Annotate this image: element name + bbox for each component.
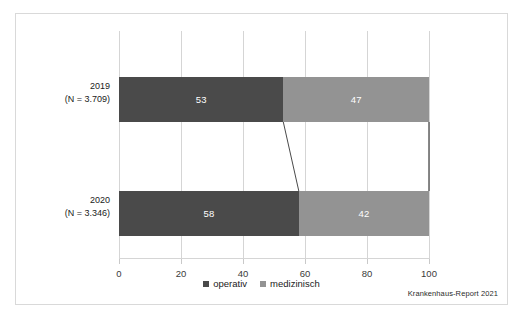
category-label-2020-n: (N = 3.346): [20, 207, 110, 220]
plot-area: 53475842: [119, 31, 429, 259]
chart-figure: 2019 (N = 3.709) 2020 (N = 3.346) 534758…: [15, 13, 508, 305]
tick-mark-0: [119, 259, 120, 264]
bar-segment: 53: [119, 77, 283, 122]
bar-value-label: 58: [203, 208, 214, 219]
tick-mark-40: [243, 259, 244, 264]
bar-value-label: 42: [358, 208, 369, 219]
bar-value-label: 47: [351, 94, 362, 105]
bar-segment: 47: [283, 77, 429, 122]
legend-item[interactable]: operativ: [203, 278, 247, 289]
category-label-2019: 2019 (N = 3.709): [20, 80, 110, 106]
legend-label: medizinisch: [270, 278, 320, 289]
tick-mark-60: [305, 259, 306, 264]
bar-segment: 58: [119, 191, 299, 236]
tick-mark-100: [429, 259, 430, 264]
bar-row: 5842: [119, 191, 429, 236]
legend-swatch-icon: [203, 281, 209, 287]
category-label-2019-n: (N = 3.709): [20, 93, 110, 106]
bar-row: 5347: [119, 77, 429, 122]
tick-mark-80: [367, 259, 368, 264]
connector-line: [283, 122, 299, 191]
category-label-2019-year: 2019: [20, 80, 110, 93]
category-label-2020: 2020 (N = 3.346): [20, 194, 110, 220]
bar-segment: 42: [299, 191, 429, 236]
chart-legend: operativmedizinisch: [16, 278, 507, 289]
x-axis-line: [119, 258, 429, 259]
gridline-100: [429, 31, 430, 259]
tick-mark-20: [181, 259, 182, 264]
legend-swatch-icon: [260, 281, 266, 287]
legend-label: operativ: [213, 278, 247, 289]
source-note: Krankenhaus-Report 2021: [408, 289, 498, 298]
bar-value-label: 53: [196, 94, 207, 105]
category-label-2020-year: 2020: [20, 194, 110, 207]
legend-item[interactable]: medizinisch: [260, 278, 320, 289]
